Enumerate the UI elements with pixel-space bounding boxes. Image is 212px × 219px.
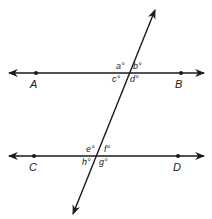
angle-d-label: d° [130, 74, 139, 84]
transversal-line [73, 10, 155, 214]
angle-h-label: h° [82, 157, 91, 167]
angle-f-label: f° [104, 144, 111, 154]
point-d-dot [176, 154, 180, 158]
angle-e-label: e° [86, 144, 95, 154]
parallel-lines-diagram: A B C D a° b° c° d° e° f° h° g° [0, 0, 212, 219]
point-a-label: A [29, 78, 37, 90]
angle-c-label: c° [112, 74, 121, 84]
point-d-label: D [173, 161, 181, 173]
angle-b-label: b° [133, 61, 142, 71]
point-a-dot [34, 71, 38, 75]
angle-a-label: a° [116, 61, 125, 71]
point-c-label: C [29, 161, 37, 173]
point-b-dot [179, 71, 183, 75]
angle-g-label: g° [99, 157, 108, 167]
point-b-label: B [175, 78, 182, 90]
point-c-dot [32, 154, 36, 158]
